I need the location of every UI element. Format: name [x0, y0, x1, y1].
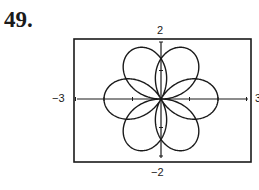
ymin-label: −2: [151, 166, 164, 178]
xmin-label: −3: [52, 92, 65, 104]
ymax-label: 2: [157, 24, 163, 36]
polar-graph: [0, 0, 259, 190]
xmax-label: 3: [255, 92, 259, 104]
